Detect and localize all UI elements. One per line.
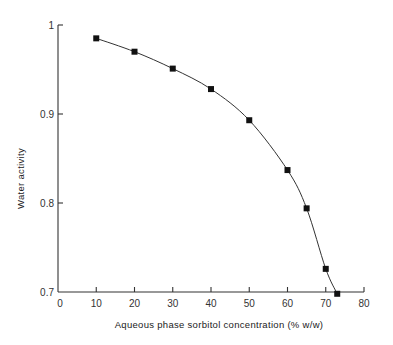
y-tick-label: 1 <box>48 20 54 31</box>
data-curve <box>96 38 337 293</box>
y-axis-label: Water activity <box>15 148 26 209</box>
x-tick-label: 40 <box>205 298 217 309</box>
data-point <box>285 167 291 173</box>
x-tick-label: 50 <box>244 298 256 309</box>
data-point <box>170 66 176 72</box>
x-tick-label: 10 <box>91 298 103 309</box>
data-point <box>334 291 340 297</box>
data-point <box>132 49 138 55</box>
x-ticks: 01020304050607080 <box>57 287 370 309</box>
y-tick-label: 0.7 <box>40 287 54 298</box>
x-tick-label: 0 <box>57 298 63 309</box>
data-markers <box>93 35 340 296</box>
x-tick-label: 70 <box>320 298 332 309</box>
x-tick-label: 30 <box>167 298 179 309</box>
y-tick-label: 0.8 <box>40 198 54 209</box>
axes <box>58 25 364 292</box>
x-tick-label: 60 <box>282 298 294 309</box>
data-point <box>93 35 99 41</box>
x-tick-label: 20 <box>129 298 141 309</box>
x-axis-label: Aqueous phase sorbitol concentration (% … <box>115 319 324 330</box>
chart: 01020304050607080 0.70.80.91 Aqueous pha… <box>0 0 393 345</box>
data-point <box>208 86 214 92</box>
data-point <box>323 266 329 272</box>
data-point <box>246 117 252 123</box>
y-ticks: 0.70.80.91 <box>40 20 63 298</box>
data-point <box>304 205 310 211</box>
y-tick-label: 0.9 <box>40 109 54 120</box>
x-tick-label: 80 <box>358 298 370 309</box>
